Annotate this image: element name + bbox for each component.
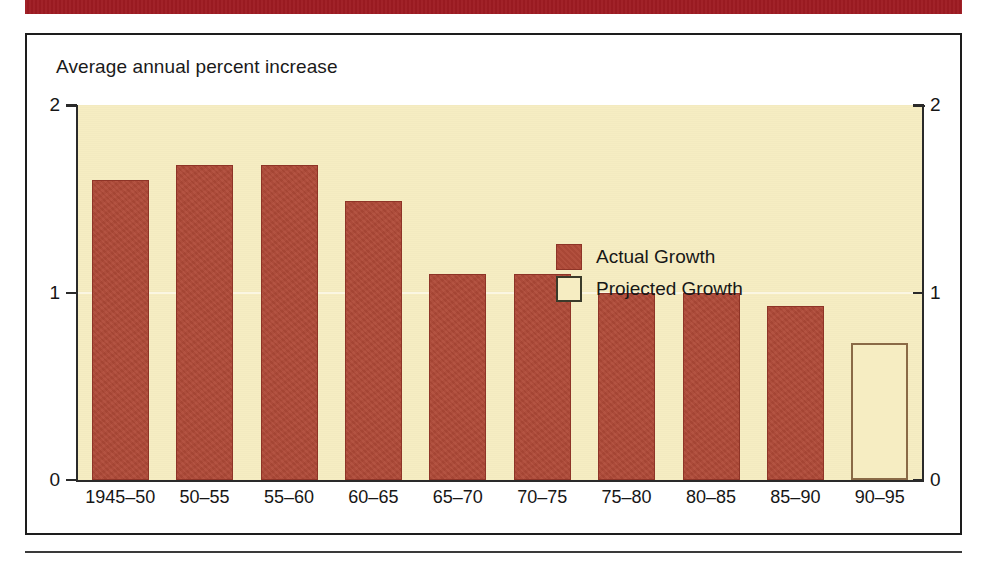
bottom-divider xyxy=(25,551,962,553)
legend-swatch-projected xyxy=(556,276,582,302)
x-label-80-85: 80–85 xyxy=(669,487,753,508)
axis-cap-left xyxy=(66,105,78,107)
chart-legend: Actual GrowthProjected Growth xyxy=(556,241,743,305)
bar-65-70 xyxy=(429,274,486,480)
plot-area: Actual GrowthProjected Growth xyxy=(78,105,922,480)
bar-85-90 xyxy=(767,306,824,480)
banner-texture xyxy=(25,0,962,14)
legend-item-actual: Actual Growth xyxy=(556,241,743,273)
legend-item-projected: Projected Growth xyxy=(556,273,743,305)
x-label-85-90: 85–90 xyxy=(753,487,837,508)
x-label-55-60: 55–60 xyxy=(247,487,331,508)
x-label-65-70: 65–70 xyxy=(416,487,500,508)
chart-title: Average annual percent increase xyxy=(56,56,338,78)
y-label-left-0: 0 xyxy=(34,470,60,489)
x-label-75-80: 75–80 xyxy=(584,487,668,508)
y-axis-left xyxy=(76,105,78,482)
x-label-70-75: 70–75 xyxy=(500,487,584,508)
y-label-left-2: 2 xyxy=(34,95,60,114)
bar-1945-50 xyxy=(92,180,149,480)
x-label-1945-50: 1945–50 xyxy=(78,487,162,508)
top-red-banner xyxy=(25,0,962,14)
y-label-right-1: 1 xyxy=(930,283,956,302)
bar-60-65 xyxy=(345,201,402,480)
y-tick-right-1 xyxy=(913,292,924,294)
x-label-90-95: 90–95 xyxy=(838,487,922,508)
y-axis-right xyxy=(922,105,924,482)
bar-80-85 xyxy=(683,293,740,481)
legend-label-actual: Actual Growth xyxy=(596,246,715,268)
bar-75-80 xyxy=(598,293,655,481)
legend-label-projected: Projected Growth xyxy=(596,278,743,300)
bar-50-55 xyxy=(176,165,233,480)
y-label-left-1: 1 xyxy=(34,283,60,302)
x-label-50-55: 50–55 xyxy=(162,487,246,508)
axis-cap-right xyxy=(913,105,925,107)
y-label-right-2: 2 xyxy=(930,95,956,114)
y-tick-left-1 xyxy=(66,292,77,294)
x-axis-baseline xyxy=(76,480,924,482)
bar-55-60 xyxy=(261,165,318,480)
legend-swatch-actual xyxy=(556,244,582,270)
x-label-60-65: 60–65 xyxy=(331,487,415,508)
bar-90-95 xyxy=(851,343,908,480)
y-label-right-0: 0 xyxy=(930,470,956,489)
